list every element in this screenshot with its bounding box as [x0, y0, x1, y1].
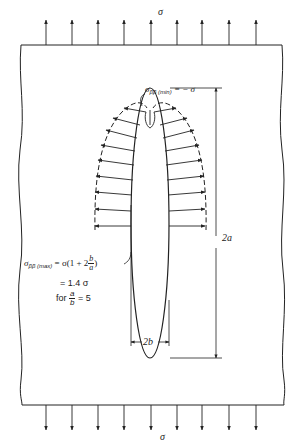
min-label-leader	[141, 94, 145, 106]
min-stress-label: σββ (min) = − σ	[145, 84, 195, 95]
bottom-tension-arrows	[46, 405, 256, 430]
max-label-leader	[124, 252, 131, 264]
compressive-tip-loop	[145, 110, 155, 128]
applied-stress-bottom-label: σ	[160, 431, 165, 442]
dimension-2b	[131, 205, 169, 346]
max-stress-label-line3: for ab = 5	[56, 290, 91, 307]
dimension-2b-label: 2b	[143, 336, 153, 347]
dimension-2a	[170, 88, 222, 358]
min-stress-subscript: ββ (min)	[149, 89, 171, 95]
a-over-b-fraction: ab	[69, 290, 75, 307]
stress-envelope	[95, 103, 206, 230]
top-tension-arrows	[46, 20, 256, 45]
max-stress-subscript: ββ (max)	[28, 263, 52, 269]
right-stress-arrows	[154, 108, 205, 226]
dimension-2a-label: 2a	[222, 232, 232, 243]
max-stress-label-line1: σββ (max) = σ(1 + 2ba)	[24, 255, 97, 272]
max-stress-label-line2: = 1.4 σ	[60, 278, 88, 288]
min-stress-value: = − σ	[174, 84, 195, 94]
applied-stress-top-label: σ	[158, 6, 163, 17]
left-stress-arrows	[95, 108, 146, 226]
plate	[19, 45, 285, 405]
diagram-canvas	[0, 0, 300, 448]
max-stress-expression: = σ(1 + 2	[55, 258, 89, 268]
